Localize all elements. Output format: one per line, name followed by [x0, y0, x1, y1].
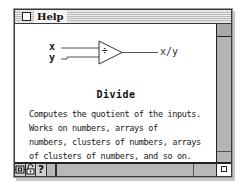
horizontal-scrollbar[interactable] — [56, 164, 205, 176]
divide-diagram — [15, 24, 217, 84]
window-title: Help — [34, 10, 67, 23]
lock-icon[interactable] — [26, 164, 36, 176]
bottom-bar-blank — [47, 164, 56, 176]
title-bar[interactable]: Help — [15, 10, 231, 24]
input-y-label: y — [49, 52, 55, 63]
function-description: Computes the quotient of the inputs. Wor… — [29, 107, 217, 163]
divide-operator-icon: ÷ — [102, 46, 107, 56]
vertical-scrollbar[interactable] — [216, 24, 231, 164]
scroll-right-arrow[interactable] — [193, 164, 205, 176]
scroll-up-arrow[interactable] — [217, 24, 231, 37]
close-box-icon[interactable] — [22, 12, 31, 21]
help-content: x y ÷ x/y Divide Computes the quotient o… — [15, 24, 217, 164]
description-line: Computes the quotient of the inputs. — [29, 107, 217, 121]
help-question-icon[interactable]: ? — [36, 164, 47, 176]
input-x-label: x — [49, 41, 55, 52]
description-line: Works on numbers, arrays of — [29, 121, 217, 135]
bottom-bar: ? — [15, 162, 231, 176]
description-line: of clusters of numbers, and so on. — [29, 149, 217, 163]
description-line: numbers, clusters of numbers, arrays — [29, 135, 217, 149]
help-window: Help x y ÷ x/y Divide Computes the quoti… — [13, 8, 233, 178]
window-body: Help x y ÷ x/y Divide Computes the quoti… — [14, 9, 232, 177]
resize-grow-box[interactable] — [216, 164, 231, 176]
output-label: x/y — [160, 46, 178, 57]
hierarchy-icon[interactable] — [15, 164, 26, 176]
function-name: Divide — [15, 89, 217, 100]
